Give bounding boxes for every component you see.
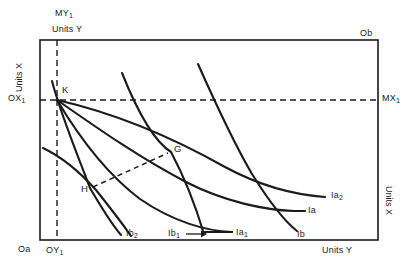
curve-label-ia2: Ia2	[331, 190, 343, 201]
point-g-label: G	[174, 143, 182, 154]
curve-ib	[198, 64, 297, 231]
gh-contract-segment	[93, 153, 168, 187]
origin-b-label: Ob	[360, 28, 372, 38]
curve-ia2	[57, 100, 325, 197]
curve-label-ia1: Ia1	[236, 227, 248, 238]
bottom-axis-label: Units Y	[322, 245, 352, 255]
mx1-label: MX1	[382, 93, 400, 104]
top-axis-label: Units Y	[52, 24, 82, 34]
right-axis-label: Units X	[384, 186, 394, 215]
edgeworth-box-svg	[0, 0, 415, 275]
left-axis-label: Units X	[14, 63, 24, 92]
my1-label: MY1	[55, 8, 73, 19]
box-frame	[40, 40, 378, 240]
curve-label-ib: Ib	[297, 229, 305, 240]
curve-ib1	[122, 73, 204, 234]
curve-label-ib2: Ib2	[126, 228, 138, 239]
curve-label-ia: Ia	[308, 205, 316, 216]
figure-canvas: MY1 Units Y Ob Units X OX1 MX1 Units X O…	[0, 0, 415, 275]
curve-label-ib1: Ib1	[168, 228, 180, 239]
origin-a-label: Oa	[18, 244, 30, 254]
point-h-label: H	[81, 183, 88, 194]
point-k-label: K	[62, 84, 69, 95]
oy1-label: OY1	[46, 245, 64, 256]
ox1-label: OX1	[8, 93, 26, 104]
